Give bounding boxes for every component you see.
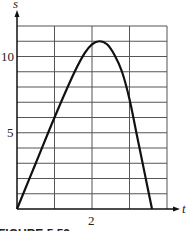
y-tick-5: 5: [7, 125, 14, 140]
curve-s-of-t: [17, 41, 152, 209]
axes: [15, 10, 181, 212]
y-axis-arrow-icon: [15, 10, 20, 17]
y-tick-10: 10: [1, 49, 14, 64]
x-axis-label: t: [182, 201, 186, 216]
y-axis-label: s: [13, 0, 18, 11]
x-tick-2: 2: [88, 213, 95, 228]
chart: s t 10 5 2 FIGURE 5.53: [0, 0, 190, 231]
grid: [17, 26, 167, 209]
x-axis-arrow-icon: [173, 207, 180, 212]
figure-caption: FIGURE 5.53: [0, 227, 70, 231]
